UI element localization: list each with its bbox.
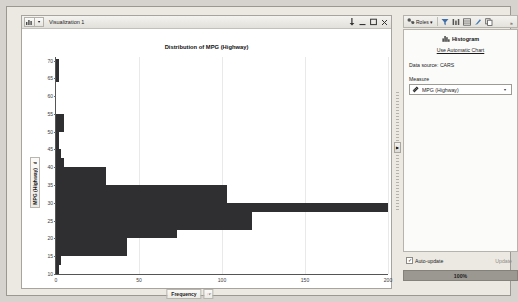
histogram-bar[interactable] [56, 59, 59, 82]
hand-pointer-icon[interactable]: ☞ [204, 289, 214, 299]
footer-controls: ✓ Auto-update Update [403, 254, 518, 267]
histogram-bar[interactable] [56, 132, 59, 141]
window-controls [348, 18, 388, 26]
y-axis-tick-label: 40 [47, 164, 53, 170]
panel-body: Histogram Use Automatic Chart Data sourc… [403, 29, 518, 252]
x-axis-tick-label: 100 [218, 277, 226, 283]
data-source-row: Data source: CARS [409, 62, 512, 68]
chart-area: Distribution of MPG (Highway) 0501001502… [22, 29, 391, 288]
histogram-bar[interactable] [56, 158, 64, 167]
paint-icon[interactable] [473, 16, 483, 27]
x-axis-tick-label: 150 [301, 277, 309, 283]
grid-line [222, 57, 223, 274]
histogram-bar[interactable] [56, 230, 177, 239]
histogram-bar[interactable] [56, 114, 64, 123]
histogram-bar[interactable] [56, 141, 59, 150]
histogram-bar[interactable] [56, 176, 106, 185]
chevron-down-icon[interactable]: ▾ [500, 85, 509, 94]
maximize-icon[interactable] [370, 18, 377, 26]
histogram-bar[interactable] [56, 238, 127, 247]
panel-splitter[interactable]: ▶ [393, 17, 402, 287]
y-axis-label[interactable]: ✏ MPG (Highway) [30, 157, 40, 208]
y-axis-tick-label: 60 [47, 93, 53, 99]
y-axis-tick-label: 15 [47, 253, 53, 259]
y-axis-tick-label: 55 [47, 111, 53, 117]
y-axis-tick-mark [54, 274, 56, 275]
plot-canvas[interactable]: 05010015020010152025303540455055606570 [55, 57, 388, 275]
histogram-bar[interactable] [56, 265, 59, 274]
columns-icon[interactable] [451, 16, 461, 27]
ruler-icon [412, 86, 420, 93]
update-button[interactable]: Update [492, 258, 515, 264]
chevron-down-icon[interactable]: ▾ [35, 17, 44, 27]
ruler-icon: ✏ [33, 160, 37, 166]
roles-icon [407, 18, 415, 25]
grid-line [139, 57, 140, 274]
histogram-bar[interactable] [56, 167, 106, 176]
copy-icon[interactable] [484, 16, 494, 27]
use-automatic-chart-link[interactable]: Use Automatic Chart [409, 47, 512, 53]
histogram-bar[interactable] [56, 212, 252, 221]
pin-icon[interactable] [348, 18, 355, 26]
histogram-bar[interactable] [56, 256, 61, 265]
y-axis-tick-label: 65 [47, 75, 53, 81]
right-panel: Roles ▾ » [403, 15, 518, 289]
data-source-label: Data source: [409, 62, 438, 68]
application-frame: ▾ Visualization 1 [6, 6, 511, 296]
x-axis-label-text: Frequency [166, 289, 201, 299]
roles-label: Roles [416, 19, 429, 25]
y-axis-tick-label: 70 [47, 58, 53, 64]
x-axis-tick-label: 200 [384, 277, 392, 283]
checkmark-icon: ✓ [406, 257, 413, 264]
visualization-titlebar[interactable]: ▾ Visualization 1 [22, 16, 391, 29]
roles-button[interactable]: Roles ▾ [405, 16, 435, 27]
panel-heading: Histogram [409, 35, 512, 42]
y-axis-tick-label: 35 [47, 182, 53, 188]
histogram-bar[interactable] [56, 247, 127, 256]
progress-label: 100% [454, 273, 467, 279]
measure-select[interactable]: MPG (Highway) ▾ [409, 84, 512, 95]
panel-toolbar: Roles ▾ » [403, 15, 518, 28]
grid-line [305, 57, 306, 274]
collapse-panel-icon[interactable]: ▶ [394, 142, 401, 153]
histogram-bar[interactable] [56, 194, 227, 203]
chart-title: Distribution of MPG (Highway) [22, 44, 391, 50]
close-icon[interactable] [381, 18, 388, 26]
toolbar-overflow-button[interactable]: » [507, 17, 516, 28]
data-source-value: CARS [440, 62, 454, 68]
x-axis-tick-label: 50 [136, 277, 142, 283]
x-axis-label[interactable]: Frequency ☞ [166, 289, 213, 299]
table-icon[interactable] [462, 16, 472, 27]
chevron-down-icon: ▾ [430, 19, 433, 25]
window-title: Visualization 1 [49, 19, 84, 25]
y-axis-tick-label: 30 [47, 200, 53, 206]
histogram-bar[interactable] [56, 203, 388, 212]
auto-update-checkbox[interactable]: ✓ Auto-update [406, 257, 443, 264]
panel-footer: ✓ Auto-update Update 100% [403, 254, 518, 289]
y-axis-tick-label: 45 [47, 146, 53, 152]
use-automatic-chart-text: Use Automatic Chart [437, 47, 485, 53]
auto-update-label: Auto-update [415, 258, 443, 264]
histogram-bar[interactable] [56, 185, 227, 194]
y-axis-tick-label: 20 [47, 235, 53, 241]
y-axis-tick-label: 25 [47, 218, 53, 224]
toolbar-separator [437, 17, 438, 26]
histogram-bar[interactable] [56, 221, 252, 230]
x-axis-tick-label: 0 [55, 277, 58, 283]
panel-heading-text: Histogram [452, 36, 479, 42]
histogram-bar[interactable] [56, 123, 64, 132]
y-axis-tick-label: 10 [47, 271, 53, 277]
y-axis-tick-mark [54, 96, 56, 97]
grid-line [388, 57, 389, 274]
measure-label: Measure [409, 76, 512, 82]
measure-value: MPG (Highway) [422, 87, 498, 93]
visualization-window: ▾ Visualization 1 [21, 15, 392, 289]
y-axis-tick-label: 50 [47, 129, 53, 135]
histogram-icon [442, 35, 450, 42]
y-axis-label-text: MPG (Highway) [32, 168, 38, 205]
histogram-bar[interactable] [56, 149, 61, 158]
chart-icon[interactable] [24, 17, 35, 27]
filter-icon[interactable] [440, 16, 450, 27]
minimize-icon[interactable] [359, 18, 366, 26]
